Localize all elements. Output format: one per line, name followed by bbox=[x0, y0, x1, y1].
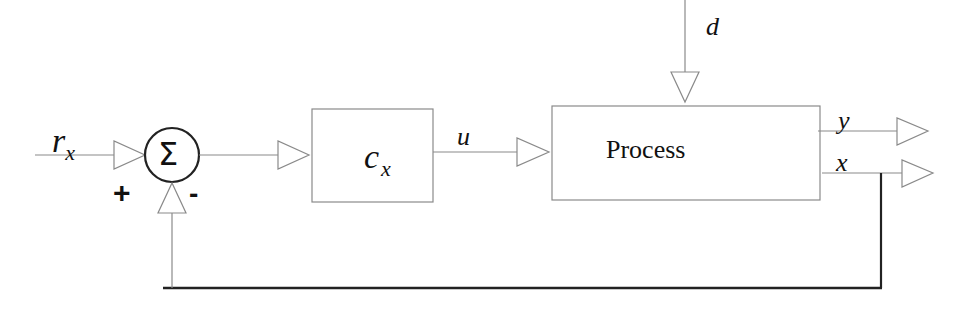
reference-arrow-icon bbox=[114, 141, 145, 169]
process-block bbox=[552, 106, 820, 200]
control-arrow-icon bbox=[517, 138, 549, 166]
error-arrow-icon bbox=[278, 141, 309, 169]
output-x-arrow-icon bbox=[902, 160, 933, 187]
minus-sign: - bbox=[189, 180, 198, 208]
disturbance-label: d bbox=[706, 14, 719, 40]
controller-label-subscript: x bbox=[381, 156, 391, 181]
output-x-label: x bbox=[836, 150, 848, 176]
feedback-arrow-icon bbox=[158, 183, 186, 213]
reference-label-subscript: x bbox=[65, 140, 75, 165]
block-diagram bbox=[0, 0, 959, 309]
output-y-arrow-icon bbox=[897, 118, 928, 145]
reference-label: rx bbox=[52, 124, 75, 158]
plus-sign: + bbox=[113, 178, 131, 208]
disturbance-arrow-icon bbox=[671, 72, 699, 102]
process-label: Process bbox=[606, 137, 685, 163]
control-signal-label: u bbox=[457, 124, 470, 150]
controller-label: cx bbox=[364, 140, 391, 174]
controller-label-main: c bbox=[364, 138, 379, 175]
summing-symbol: Σ bbox=[158, 138, 178, 170]
output-y-label: y bbox=[838, 108, 850, 134]
reference-label-main: r bbox=[52, 122, 65, 159]
